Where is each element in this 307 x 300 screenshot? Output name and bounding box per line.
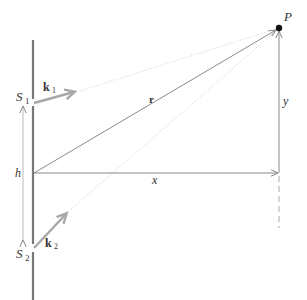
label-k1: k	[43, 80, 50, 94]
label-p: P	[283, 9, 292, 24]
two-slit-diagram: P S 1 S 2 k 1 k 2 r x y h	[0, 0, 307, 300]
label-s2-sub: 2	[25, 253, 30, 263]
label-h: h	[15, 166, 21, 180]
label-k2-sub: 2	[54, 242, 58, 251]
r-vector	[34, 30, 276, 173]
label-x: x	[151, 173, 158, 187]
label-s1: S	[16, 89, 23, 104]
label-k2: k	[45, 236, 52, 250]
point-p	[276, 25, 282, 31]
ray-s1-to-p	[80, 28, 279, 91]
label-r: r	[149, 93, 154, 105]
label-k1-sub: 1	[52, 86, 56, 95]
label-s1-sub: 1	[25, 96, 30, 106]
label-s2: S	[16, 246, 23, 261]
ray-s2-to-p	[68, 28, 279, 212]
label-y: y	[282, 94, 289, 108]
